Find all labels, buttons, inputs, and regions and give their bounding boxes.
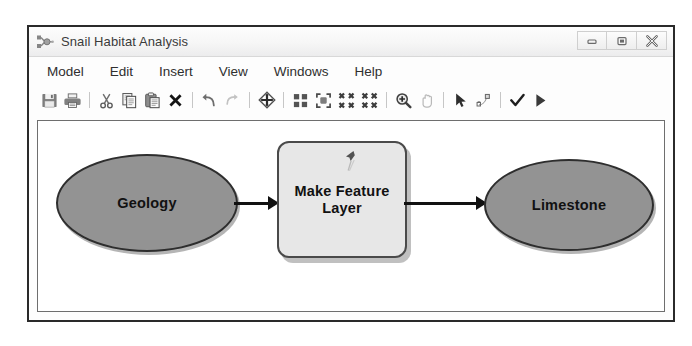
connector-line <box>234 202 270 205</box>
redo-button[interactable] <box>221 89 244 112</box>
copy-button[interactable] <box>118 89 141 112</box>
save-button[interactable] <box>38 89 61 112</box>
menu-item-model[interactable]: Model <box>45 63 86 80</box>
zoom-to-selected-button[interactable] <box>335 89 358 112</box>
add-data-button[interactable] <box>255 89 278 112</box>
paste-button[interactable] <box>141 89 164 112</box>
undo-button[interactable] <box>198 89 221 112</box>
maximize-button[interactable] <box>607 31 637 50</box>
separator-1 <box>89 92 90 108</box>
connector-line <box>404 202 478 205</box>
select-button[interactable] <box>449 89 472 112</box>
separator-3 <box>249 92 250 108</box>
model-node-geology-label: Geology <box>117 195 176 212</box>
minimize-button[interactable] <box>577 31 607 50</box>
menu-item-help[interactable]: Help <box>353 63 385 80</box>
model-canvas[interactable]: Geology Make Feature Layer <box>38 121 664 311</box>
separator-6 <box>443 92 444 108</box>
model-builder-icon <box>36 33 54 51</box>
run-button[interactable] <box>529 89 552 112</box>
pan-button[interactable] <box>415 89 438 112</box>
model-node-geology[interactable]: Geology <box>56 154 238 252</box>
model-node-limestone-label: Limestone <box>532 197 606 214</box>
model-node-limestone[interactable]: Limestone <box>484 159 654 251</box>
menu-item-windows[interactable]: Windows <box>272 63 331 80</box>
window-controls <box>577 31 667 50</box>
full-extent-button[interactable] <box>312 89 335 112</box>
model-canvas-border: Geology Make Feature Layer <box>37 120 665 312</box>
separator-5 <box>386 92 387 108</box>
validate-button[interactable] <box>506 89 529 112</box>
menu-item-insert[interactable]: Insert <box>157 63 195 80</box>
model-builder-window: Snail Habitat Analysis M <box>27 25 675 322</box>
title-bar: Snail Habitat Analysis <box>29 27 673 57</box>
menu-item-view[interactable]: View <box>217 63 250 80</box>
connector-geology-to-make-feature-layer <box>234 196 281 210</box>
toolbar <box>29 85 673 115</box>
separator-7 <box>500 92 501 108</box>
zoom-in-button[interactable] <box>392 89 415 112</box>
separator-4 <box>283 92 284 108</box>
menu-item-edit[interactable]: Edit <box>108 63 135 80</box>
cut-button[interactable] <box>95 89 118 112</box>
menu-bar: Model Edit Insert View Windows Help <box>29 57 673 85</box>
delete-button[interactable] <box>164 89 187 112</box>
auto-layout-button[interactable] <box>289 89 312 112</box>
print-button[interactable] <box>61 89 84 112</box>
connect-button[interactable] <box>472 89 495 112</box>
separator-2 <box>192 92 193 108</box>
model-node-make-feature-layer-label: Make Feature Layer <box>279 183 405 216</box>
window-title: Snail Habitat Analysis <box>61 34 188 49</box>
cursor-arrow-icon <box>341 149 363 175</box>
fit-to-window-button[interactable] <box>358 89 381 112</box>
close-button[interactable] <box>637 31 667 50</box>
connector-make-feature-layer-to-limestone <box>404 196 490 210</box>
